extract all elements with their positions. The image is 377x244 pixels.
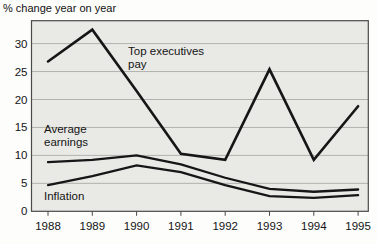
x-tick-label: 1989 <box>80 220 106 232</box>
series-label-top-executives-pay: Top executives pay <box>128 45 216 71</box>
series-label-inflation: Inflation <box>44 190 116 203</box>
x-tick-label: 1992 <box>212 220 238 232</box>
x-tick-label: 1993 <box>257 220 283 232</box>
y-tick-label: 15 <box>15 121 28 133</box>
series-label-average-earnings: Average earnings <box>44 123 108 149</box>
x-tick-label: 1988 <box>35 220 61 232</box>
x-tick-label: 1990 <box>124 220 150 232</box>
line-chart: 0510152025301988198919901991199219931994… <box>0 0 377 244</box>
x-tick-label: 1995 <box>345 220 371 232</box>
y-tick-label: 10 <box>15 149 28 161</box>
x-tick-label: 1991 <box>168 220 194 232</box>
y-tick-label: 30 <box>15 38 28 50</box>
x-tick-label: 1994 <box>301 220 327 232</box>
y-tick-label: 0 <box>21 205 27 217</box>
chart-figure: % change year on year 051015202530198819… <box>0 0 377 244</box>
y-tick-label: 25 <box>15 66 28 78</box>
y-tick-label: 20 <box>15 94 28 106</box>
y-tick-label: 5 <box>21 177 27 189</box>
